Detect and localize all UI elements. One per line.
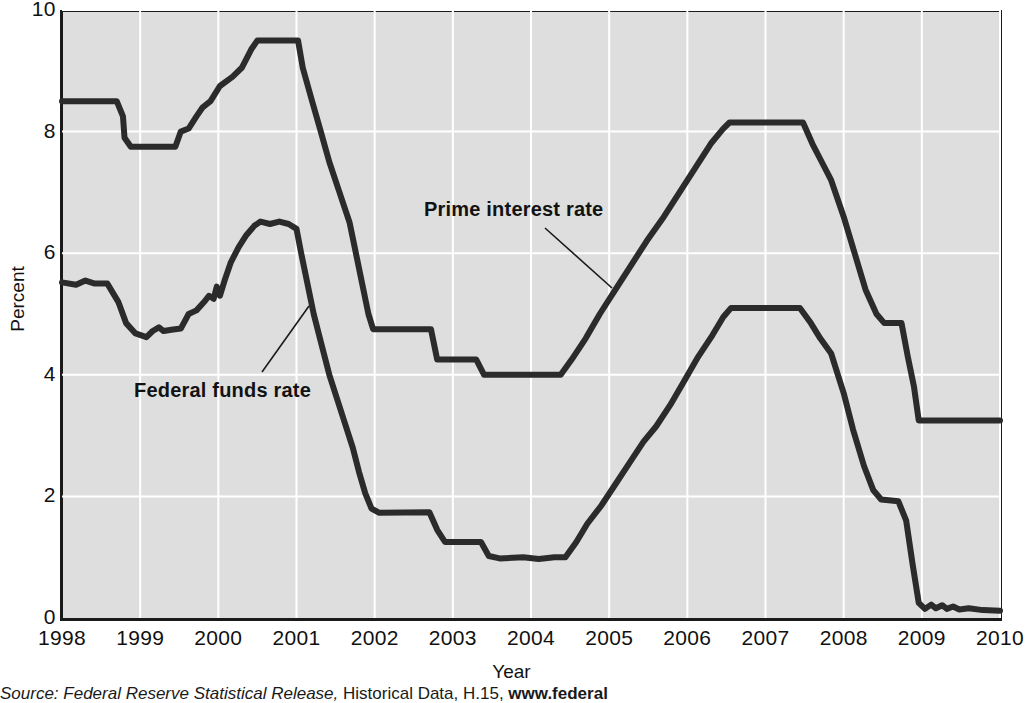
y-tick-label: 4	[8, 362, 56, 386]
x-axis-title: Year	[0, 661, 1023, 683]
x-tick-label: 1998	[22, 626, 102, 650]
source-note: Source: Federal Reserve Statistical Rele…	[0, 684, 1023, 703]
x-tick-label: 2005	[569, 626, 649, 650]
series-label-federal-funds-rate: Federal funds rate	[134, 379, 311, 402]
x-tick-label: 2006	[647, 626, 727, 650]
y-axis-line	[60, 10, 63, 621]
source-publication: Federal Reserve Statistical Release,	[63, 684, 338, 703]
y-tick-label: 8	[8, 119, 56, 143]
source-detail: Historical Data, H.15,	[338, 684, 508, 703]
x-tick-label: 2007	[726, 626, 806, 650]
series-label-prime-interest-rate: Prime interest rate	[424, 198, 603, 221]
source-url: www.federal	[508, 684, 608, 703]
x-tick-label: 1999	[100, 626, 180, 650]
plot-area	[62, 10, 1002, 620]
x-axis-tick-labels: 1998199920002001200220032004200520062007…	[0, 626, 1023, 658]
x-tick-label: 2010	[960, 626, 1028, 650]
x-tick-label: 2003	[413, 626, 493, 650]
y-tick-label: 10	[8, 0, 56, 21]
x-tick-label: 2008	[804, 626, 884, 650]
source-prefix: Source:	[0, 684, 63, 703]
x-tick-label: 2004	[491, 626, 571, 650]
x-tick-label: 2009	[882, 626, 962, 650]
x-axis-line	[62, 618, 1002, 621]
x-tick-label: 2002	[335, 626, 415, 650]
y-axis-title: Percent	[7, 249, 29, 349]
x-tick-label: 2000	[178, 626, 258, 650]
y-axis-tick-labels: 1086420	[0, 0, 56, 703]
x-tick-label: 2001	[257, 626, 337, 650]
y-tick-label: 2	[8, 483, 56, 507]
